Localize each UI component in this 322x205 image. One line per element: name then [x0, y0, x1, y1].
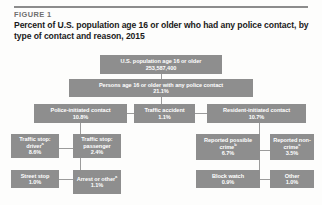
node-value: 10.7%: [249, 114, 265, 120]
node-value: 0.9%: [222, 179, 235, 185]
node-label: Reported possible crimeb: [198, 137, 258, 150]
node-label: Traffic stop: passenger: [75, 136, 119, 149]
node-police-initiated-contact[interactable]: Police-initiated contact 10.8%: [34, 104, 127, 123]
footnote-marker: a: [115, 174, 117, 179]
node-us-population[interactable]: U.S. population age 16 or older 253,587,…: [100, 55, 222, 74]
node-value: 1.0%: [286, 179, 299, 185]
node-value: 3.5%: [286, 150, 299, 156]
connector-level2-bus-right: [195, 113, 207, 114]
footnote-marker: c: [298, 142, 300, 147]
figure-title: Percent of U.S. population age 16 or old…: [14, 20, 310, 43]
node-value: 21.1%: [153, 88, 169, 94]
figure-top-rule: [14, 6, 308, 8]
node-value: 8.6%: [29, 149, 42, 155]
figure-label: FIGURE 1: [14, 10, 52, 19]
node-value: 1.1%: [158, 114, 171, 120]
node-reported-non-crime[interactable]: Reported non-crimec 3.5%: [270, 134, 314, 160]
footnote-marker: b: [234, 142, 236, 147]
node-value: 1.1%: [91, 182, 104, 188]
node-traffic-stop-driver[interactable]: Traffic stop: drivera 8.6%: [11, 134, 59, 158]
connector-anycontact-stem: [161, 97, 162, 104]
node-resident-initiated-contact[interactable]: Resident-initiated contact 10.7%: [207, 104, 306, 123]
node-value: 1.0%: [29, 179, 42, 185]
node-traffic-accident[interactable]: Traffic accident 1.1%: [134, 104, 195, 123]
node-reported-possible-crime[interactable]: Reported possible crimeb 6.7%: [196, 134, 260, 160]
figure-panel: FIGURE 1 Percent of U.S. population age …: [0, 0, 322, 205]
footnote-marker: a: [42, 141, 44, 146]
node-any-police-contact[interactable]: Persons age 16 or older with any police …: [69, 79, 253, 97]
node-traffic-stop-passenger[interactable]: Traffic stop: passenger 2.4%: [73, 134, 121, 158]
node-value: 253,587,400: [146, 65, 177, 71]
node-other[interactable]: Other 1.0%: [270, 170, 314, 188]
node-arrest-or-other[interactable]: Arrest or othera 1.1%: [73, 170, 121, 194]
node-label: Reported non-crimec: [272, 137, 312, 150]
node-value: 6.7%: [222, 150, 235, 156]
node-street-stop[interactable]: Street stop 1.0%: [11, 170, 59, 188]
node-value: 2.4%: [91, 149, 104, 155]
node-value: 10.8%: [73, 114, 89, 120]
node-block-watch[interactable]: Block watch 0.9%: [196, 170, 260, 188]
node-label: Traffic stop: drivera: [13, 136, 57, 149]
